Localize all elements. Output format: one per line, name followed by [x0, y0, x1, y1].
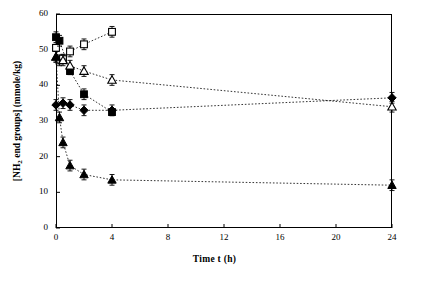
data-point-filled-diamond [66, 101, 74, 109]
y-tick-label: 40 [0, 79, 48, 89]
data-point-filled-diamond [59, 99, 67, 107]
x-tick-label: 20 [321, 232, 351, 242]
y-axis-label-prefix: [NH [12, 164, 22, 181]
data-point-filled-triangle [55, 113, 63, 120]
data-point-filled-diamond [388, 94, 396, 102]
data-point-open-square [109, 28, 116, 35]
y-tick-label: 60 [0, 8, 48, 18]
x-axis-label: Time t (h) [0, 254, 429, 264]
x-tick-label: 4 [97, 232, 127, 242]
data-point-open-square [81, 41, 88, 48]
x-tick-label: 24 [377, 232, 407, 242]
series-open-triangle [52, 51, 396, 112]
chart-canvas [0, 0, 429, 290]
data-point-filled-square [56, 37, 63, 44]
data-point-filled-triangle [59, 138, 67, 145]
y-tick-label: 20 [0, 151, 48, 161]
data-point-open-square [53, 44, 60, 51]
y-tick-label: 0 [0, 222, 48, 232]
data-point-filled-triangle [388, 181, 396, 188]
data-point-filled-diamond [80, 106, 88, 114]
series-filled-triangle [52, 51, 396, 190]
x-tick-label: 0 [41, 232, 71, 242]
data-point-open-triangle [80, 67, 88, 74]
data-point-filled-triangle [108, 176, 116, 183]
y-axis-label-subscript: 2 [16, 160, 24, 164]
data-point-open-triangle [108, 76, 116, 83]
data-point-open-square [67, 48, 74, 55]
chart-root: Time t (h) [NH2 end groups] (mmole/kg) 0… [0, 0, 429, 290]
x-tick-label: 16 [265, 232, 295, 242]
data-point-filled-triangle [52, 53, 60, 60]
data-point-filled-triangle [66, 161, 74, 168]
y-tick-label: 30 [0, 115, 48, 125]
data-point-open-triangle [388, 103, 396, 110]
series-filled-diamond [52, 92, 396, 115]
data-point-filled-triangle [80, 170, 88, 177]
y-tick-label: 10 [0, 186, 48, 196]
data-point-filled-square [81, 91, 88, 98]
x-tick-label: 12 [209, 232, 239, 242]
x-tick-label: 8 [153, 232, 183, 242]
y-tick-label: 50 [0, 44, 48, 54]
y-axis-label-suffix: end groups] (mmole/kg) [12, 61, 22, 160]
